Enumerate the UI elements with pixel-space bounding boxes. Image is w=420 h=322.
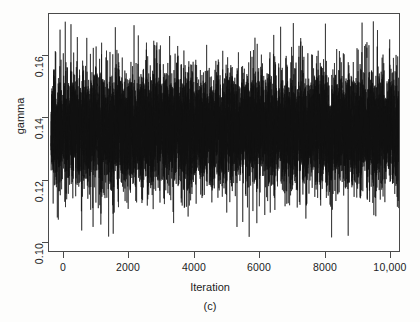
trace-plot-figure: 0.16 0.14 0.12 0.10 0 2000 4000 6000 800… — [0, 0, 420, 322]
y-tick-label: 0.12 — [33, 181, 45, 202]
x-tick-mark — [128, 252, 129, 258]
x-tick-mark — [390, 252, 391, 258]
x-tick-label: 0 — [60, 261, 66, 273]
x-tick-label: 6000 — [247, 261, 271, 273]
y-tick-label: 0.14 — [33, 118, 45, 139]
x-tick-mark — [63, 252, 64, 258]
y-axis-label: gamma — [14, 98, 26, 135]
x-tick-label: 2000 — [116, 261, 140, 273]
x-axis-label: Iteration — [0, 281, 420, 293]
x-tick-mark — [194, 252, 195, 258]
x-tick-mark — [259, 252, 260, 258]
x-tick-label: 8000 — [313, 261, 337, 273]
x-tick-label: 4000 — [182, 261, 206, 273]
x-tick-mark — [325, 252, 326, 258]
y-tick-label: 0.16 — [33, 56, 45, 77]
y-tick-label: 0.10 — [33, 243, 45, 264]
figure-caption: (c) — [0, 300, 420, 312]
gamma-trace-line — [49, 14, 400, 252]
plot-area — [48, 13, 400, 252]
x-tick-label: 10,000 — [373, 261, 406, 273]
